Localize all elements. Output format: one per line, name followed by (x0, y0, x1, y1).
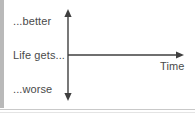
vertical-axis-down-arrowhead (64, 93, 71, 101)
y-axis-bottom-label: ...worse (13, 83, 52, 95)
y-axis-origin-label: Life gets... (13, 49, 65, 61)
vertical-axis-up-arrowhead (64, 9, 71, 17)
x-axis-label: Time (160, 60, 184, 72)
figure-container: ...better Life gets... ...worse Time (0, 0, 195, 113)
horizontal-axis-right-arrowhead (176, 51, 184, 58)
y-axis-top-label: ...better (13, 15, 51, 27)
